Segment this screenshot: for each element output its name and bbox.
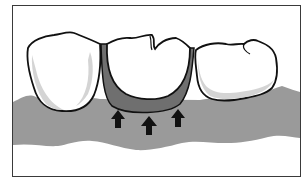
center-pontic: [107, 35, 190, 99]
left-tooth: [27, 32, 100, 111]
right-tooth: [195, 40, 277, 101]
dental-illustration: [0, 0, 303, 181]
